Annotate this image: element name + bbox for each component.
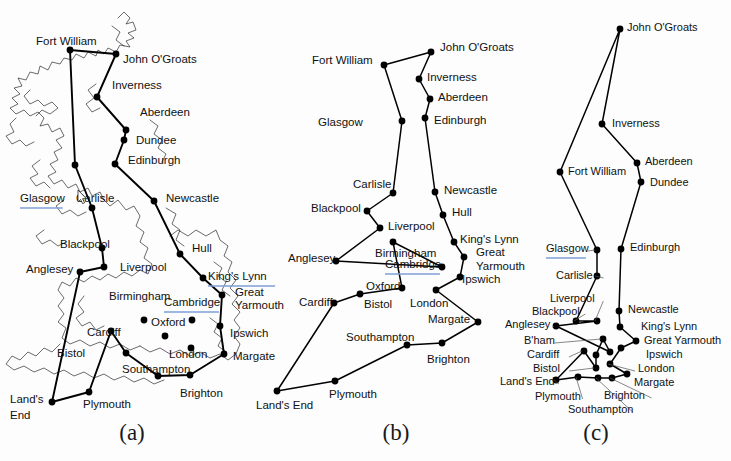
city-node[interactable]	[451, 239, 458, 246]
city-node[interactable]	[221, 351, 228, 358]
city-node[interactable]	[439, 340, 446, 347]
city-node[interactable]	[217, 323, 224, 330]
city-node[interactable]	[177, 251, 184, 258]
city-node[interactable]	[607, 361, 614, 368]
city-node[interactable]	[72, 162, 79, 169]
city-label: John O'Groats	[123, 53, 197, 65]
city-node[interactable]	[123, 127, 130, 134]
city-label: Margate	[428, 313, 470, 325]
city-node[interactable]	[593, 352, 600, 359]
city-label: Southampton	[568, 403, 633, 415]
city-node[interactable]	[618, 246, 625, 253]
city-node[interactable]	[433, 287, 440, 294]
city-node[interactable]	[633, 338, 640, 345]
city-label: Brighton	[180, 387, 223, 399]
city-node[interactable]	[422, 115, 429, 122]
city-label: Glasgow	[318, 116, 363, 128]
city-node[interactable]	[432, 189, 439, 196]
city-label[interactable]: Cambridge	[164, 296, 220, 308]
panel-c-tour-edges	[556, 29, 641, 380]
caption-b: (b)	[383, 420, 410, 445]
city-label[interactable]: Glasgow	[20, 192, 65, 204]
panel-a-labels: John O'GroatsFort WilliamInvernessAberde…	[10, 35, 284, 421]
city-node[interactable]	[332, 378, 339, 385]
city-node[interactable]	[94, 94, 101, 101]
city-node[interactable]	[440, 212, 447, 219]
city-label: Oxford	[366, 280, 401, 292]
city-node[interactable]	[377, 225, 384, 232]
city-node[interactable]	[575, 374, 582, 381]
city-label: Southampton	[346, 331, 414, 343]
city-label: Land's	[10, 393, 44, 405]
city-node[interactable]	[151, 198, 158, 205]
city-node[interactable]	[428, 49, 435, 56]
city-node[interactable]	[77, 269, 84, 276]
city-node[interactable]	[189, 317, 196, 324]
city-node[interactable]	[617, 26, 624, 33]
city-label: Blackpool	[532, 305, 580, 317]
city-node[interactable]	[557, 169, 564, 176]
city-node[interactable]	[595, 375, 602, 382]
city-node[interactable]	[113, 51, 120, 58]
city-node[interactable]	[638, 179, 645, 186]
city-node[interactable]	[101, 264, 108, 271]
city-node[interactable]	[141, 317, 148, 324]
city-node[interactable]	[162, 333, 169, 340]
city-node[interactable]	[357, 291, 364, 298]
city-label: Fort William	[568, 165, 626, 177]
city-node[interactable]	[390, 239, 397, 246]
city-node[interactable]	[49, 399, 56, 406]
city-node[interactable]	[624, 371, 631, 378]
caption-a: (a)	[119, 420, 145, 445]
city-label: Inverness	[612, 117, 660, 129]
city-label: End	[10, 409, 30, 421]
city-node[interactable]	[67, 47, 74, 54]
city-label[interactable]: King's Lynn	[208, 270, 267, 282]
leader-line	[569, 368, 594, 371]
city-label: Great	[476, 246, 506, 258]
city-label[interactable]: Glasgow	[546, 242, 589, 254]
city-node[interactable]	[86, 389, 93, 396]
city-node[interactable]	[618, 345, 625, 352]
city-node[interactable]	[461, 254, 468, 261]
city-node[interactable]	[599, 121, 606, 128]
city-node[interactable]	[364, 208, 371, 215]
leader-line	[555, 339, 602, 343]
city-label: Margate	[233, 350, 275, 362]
city-node[interactable]	[475, 319, 482, 326]
city-node[interactable]	[416, 76, 423, 83]
city-node[interactable]	[390, 190, 397, 197]
city-node[interactable]	[274, 388, 281, 395]
city-node[interactable]	[616, 308, 623, 315]
three-panel-map-figure: John O'GroatsFort WilliamInvernessAberde…	[0, 0, 731, 461]
caption-c: (c)	[583, 420, 609, 445]
city-label: Inverness	[427, 71, 477, 83]
city-node[interactable]	[200, 275, 207, 282]
leader-line	[595, 301, 603, 321]
city-label: Cardiff	[527, 348, 560, 360]
city-node[interactable]	[617, 324, 624, 331]
city-label: Plymouth	[329, 388, 377, 400]
city-node[interactable]	[381, 62, 388, 69]
city-label: Carlisle	[556, 269, 593, 281]
city-node[interactable]	[594, 318, 601, 325]
city-label: Oxford	[151, 316, 186, 328]
city-node[interactable]	[121, 137, 128, 144]
city-node[interactable]	[123, 350, 130, 357]
city-node[interactable]	[399, 118, 406, 125]
city-label: Margate	[634, 376, 674, 388]
city-label: Cardiff	[299, 296, 333, 308]
city-node[interactable]	[634, 160, 641, 167]
city-node[interactable]	[427, 96, 434, 103]
city-label: Plymouth	[83, 398, 131, 410]
city-node[interactable]	[607, 349, 614, 356]
city-label: John O'Groats	[627, 21, 698, 33]
city-label: Great	[235, 286, 265, 298]
city-node[interactable]	[112, 161, 119, 168]
city-node[interactable]	[594, 273, 601, 280]
city-label[interactable]: Cambridge	[385, 258, 441, 270]
city-node[interactable]	[89, 205, 96, 212]
city-label: Great Yarmouth	[644, 334, 721, 346]
city-label: Aberdeen	[140, 106, 190, 118]
city-label: Carlisle	[353, 178, 391, 190]
